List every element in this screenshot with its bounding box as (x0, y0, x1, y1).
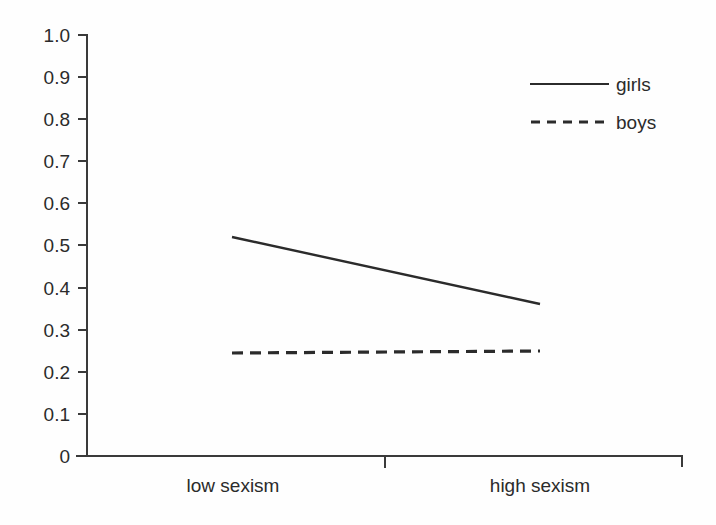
line-chart-plot: 1.0 0.9 0.8 0.7 0.6 0.5 0.4 0.3 0.2 0.1 … (0, 0, 716, 525)
y-tick-label: 0.4 (44, 278, 71, 299)
legend-label-boys: boys (616, 112, 656, 133)
y-tick-label: 0.7 (44, 151, 70, 172)
y-tick-label: 0.3 (44, 320, 70, 341)
y-tick-label: 0.8 (44, 109, 70, 130)
y-tick-label: 0.5 (44, 235, 70, 256)
y-tick-label: 0.9 (44, 67, 70, 88)
y-tick-label: 0.1 (44, 404, 70, 425)
chart-container: 1.0 0.9 0.8 0.7 0.6 0.5 0.4 0.3 0.2 0.1 … (0, 0, 716, 525)
series-line-girls (232, 237, 540, 304)
y-axis-tick-labels: 1.0 0.9 0.8 0.7 0.6 0.5 0.4 0.3 0.2 0.1 … (44, 25, 71, 467)
x-tick-label-high-sexism: high sexism (490, 475, 590, 496)
x-tick-label-low-sexism: low sexism (187, 475, 280, 496)
y-tick-label: 0.2 (44, 362, 70, 383)
legend-label-girls: girls (616, 74, 651, 95)
y-tick-label: 1.0 (44, 25, 70, 46)
y-tick-label: 0 (59, 446, 70, 467)
y-axis-ticks (78, 35, 87, 414)
chart-legend: girls boys (530, 74, 656, 133)
y-tick-label: 0.6 (44, 193, 70, 214)
series-line-boys (232, 351, 540, 353)
x-axis-tick-labels: low sexism high sexism (187, 475, 591, 496)
